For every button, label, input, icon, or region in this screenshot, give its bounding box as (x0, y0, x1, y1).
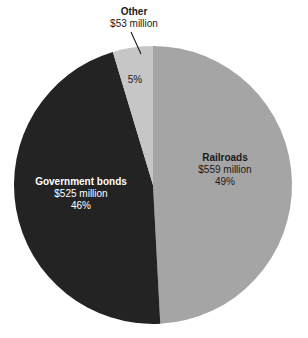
slice-label-railroads-amount: $559 million (166, 164, 284, 176)
slice-label-government-bonds-name: Government bonds (14, 176, 148, 188)
slice-label-other-percent: 5% (112, 74, 158, 86)
slice-label-other-amount: $53 million (74, 18, 194, 30)
slice-label-government-bonds-percent: 46% (14, 200, 148, 212)
slice-label-railroads-percent: 49% (166, 176, 284, 188)
slice-label-railroads-name: Railroads (166, 152, 284, 164)
slice-label-other-percent-wrap: 5% (112, 74, 158, 86)
slice-label-government-bonds: Government bonds $525 million 46% (14, 176, 148, 211)
pie-chart-figure: Other $53 million 5% Railroads $559 mill… (0, 0, 308, 338)
slice-label-government-bonds-amount: $525 million (14, 188, 148, 200)
slice-label-other-name: Other (74, 6, 194, 18)
slice-label-railroads: Railroads $559 million 49% (166, 152, 284, 187)
slice-label-other: Other $53 million (74, 6, 194, 30)
